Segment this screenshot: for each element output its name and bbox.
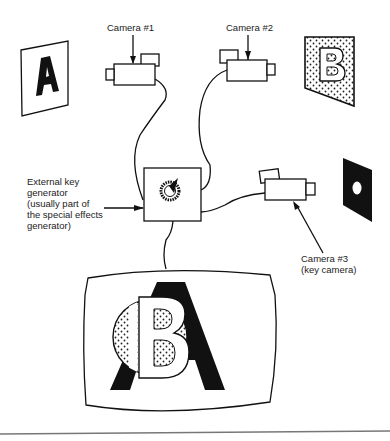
bottom-rule [0, 431, 390, 434]
card-b [305, 37, 354, 106]
card-a [21, 41, 68, 116]
key-generator-label-4: the special effects [27, 209, 103, 220]
key-generator-label-1: External key [27, 176, 79, 187]
cable-camera3 [201, 193, 265, 212]
monitor [84, 271, 277, 411]
camera-3 [259, 169, 323, 253]
camera-3-label-1: Camera #3 [301, 253, 348, 264]
key-generator-label-5: generator) [27, 220, 71, 231]
camera-3-label-2: (key camera) [301, 264, 356, 275]
key-generator-label-2: generator [27, 187, 68, 198]
cable-monitor [164, 221, 173, 269]
key-generator-label-3: (usually part of [27, 198, 89, 209]
cable-camera2 [199, 70, 227, 190]
camera-2-label: Camera #2 [226, 22, 273, 33]
camera-2 [220, 35, 275, 81]
camera-1 [106, 35, 159, 85]
camera-1-label: Camera #1 [107, 22, 154, 33]
key-card [343, 158, 372, 222]
key-generator [104, 168, 201, 221]
